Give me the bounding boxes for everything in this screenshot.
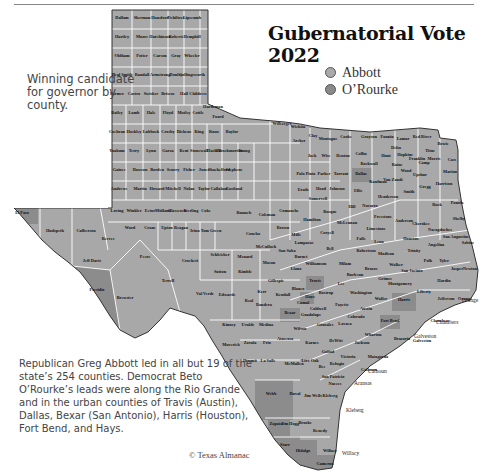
county-label: Austin xyxy=(360,306,373,311)
county-label: Sabine xyxy=(462,240,475,245)
county-label: Childress xyxy=(189,91,207,96)
county-label: Kinney xyxy=(222,322,236,327)
county-label: Baylor xyxy=(226,129,239,134)
county-label: Collingsworth xyxy=(179,72,206,77)
county-label: Motley xyxy=(178,110,192,115)
county-label: Dallas xyxy=(355,171,367,176)
county-label: Terry xyxy=(129,148,140,153)
county-label: Collin xyxy=(355,151,367,156)
county-label: Lamar xyxy=(397,136,410,141)
county-label: Bexar xyxy=(285,310,296,315)
county-label: Floyd xyxy=(163,110,174,115)
county-label: Irion xyxy=(190,228,200,233)
county-label: Comanche xyxy=(279,208,299,213)
county-label: Taylor xyxy=(198,186,210,191)
county-label: Hill xyxy=(349,204,357,209)
county-label: Burleson xyxy=(347,272,364,277)
county-label: Garza xyxy=(162,148,174,153)
county-label: Brown xyxy=(277,225,290,230)
county-label: Travis xyxy=(309,278,321,283)
county-label: Sutton xyxy=(214,269,227,274)
county-label: Jackson xyxy=(355,340,370,345)
county-label: Winkler xyxy=(126,208,141,213)
county-label: Polk xyxy=(424,258,433,263)
county-label: Walker xyxy=(389,262,403,267)
abbott-swatch-icon xyxy=(325,67,336,78)
map-subtitle: Winning candidate for governor by county… xyxy=(27,73,137,112)
county-label: Freestone xyxy=(374,214,392,219)
county-label: San Augustine xyxy=(443,234,469,239)
county-label: El Paso xyxy=(15,210,29,215)
county-label: McMullen xyxy=(284,361,304,366)
county-label: Henderson xyxy=(378,194,399,199)
map-note: Republican Greg Abbott led in all but 19… xyxy=(19,357,255,435)
county-label: Edwards xyxy=(219,292,236,297)
county-label: Wood xyxy=(401,168,412,173)
county-label: Randall xyxy=(135,72,150,77)
county-label: Gonzales xyxy=(317,322,334,327)
svg-text:Orange: Orange xyxy=(462,297,479,303)
county-label: Reagan xyxy=(174,225,188,230)
county-label: Upshur xyxy=(413,172,427,177)
county-label: Montague xyxy=(319,136,338,141)
svg-text:Kleberg: Kleberg xyxy=(346,407,364,413)
county-label: Cameron xyxy=(316,461,334,466)
county-label: Terrell xyxy=(162,278,175,283)
county-label: McCulloch xyxy=(256,244,277,249)
county-label: Marion xyxy=(443,169,457,174)
county-label: Gaines xyxy=(113,167,126,172)
county-label: Frio xyxy=(263,340,271,345)
county-label: Erath xyxy=(298,187,309,192)
county-label: Briscoe xyxy=(161,91,175,96)
county-label: Newton xyxy=(463,266,478,271)
county-label: Lavaca xyxy=(338,321,352,326)
county-label: Gray xyxy=(171,53,181,58)
legend-item-orourke: O’Rourke xyxy=(325,81,398,98)
county-label: Montgomery xyxy=(388,281,413,286)
county-label: Cottle xyxy=(192,110,203,115)
county-label: Comal xyxy=(297,300,310,305)
county-label: Brooks xyxy=(298,420,311,425)
svg-text:Calhoun: Calhoun xyxy=(368,368,387,374)
county-label: Young xyxy=(238,148,251,153)
county-label: Red River xyxy=(413,134,432,139)
county-label: Brazoria xyxy=(394,336,411,341)
county-label: Hopkins xyxy=(397,152,413,157)
county-label: Caldwell xyxy=(310,306,327,311)
county-label: San Saba xyxy=(278,248,296,253)
county-label: Hood xyxy=(316,186,327,191)
county-label: Concho xyxy=(246,231,260,236)
county-label: Denton xyxy=(336,153,350,158)
county-label: Real xyxy=(245,298,254,303)
county-label: Sherman xyxy=(134,15,151,20)
svg-text:Chambers: Chambers xyxy=(436,319,458,325)
county-label: Trinity xyxy=(408,248,422,253)
county-label: Hamilton xyxy=(303,217,321,222)
county-label: Swisher xyxy=(144,91,159,96)
county-label: Sterling xyxy=(184,208,199,213)
county-label: Wichita xyxy=(291,124,306,129)
county-label: Medina xyxy=(259,322,274,327)
county-label: Kendall xyxy=(276,292,291,297)
county-label: Jim Wells xyxy=(304,393,322,398)
county-label: Kenedy xyxy=(313,428,328,433)
county-label: Atascosa xyxy=(277,336,294,341)
county-label: Houston xyxy=(403,236,419,241)
county-label: Grimes xyxy=(378,276,392,281)
county-label: Clay xyxy=(309,133,318,138)
county-label: Harrison xyxy=(436,181,453,186)
county-label: Jasper xyxy=(451,266,463,271)
county-label: Coleman xyxy=(259,212,276,217)
county-label: Maverick xyxy=(222,342,240,347)
county-label: Reeves xyxy=(102,236,115,241)
county-label: Matagorda xyxy=(368,354,389,359)
county-label: Fisher xyxy=(183,167,195,172)
county-label: Harris xyxy=(398,297,410,302)
county-label: Hartley xyxy=(115,34,130,39)
county-label: Hidalgo xyxy=(296,448,311,453)
county-label: Llano xyxy=(291,266,302,271)
county-label: Mills xyxy=(291,232,301,237)
county-label: Armstrong xyxy=(150,72,171,77)
county-label: Mason xyxy=(263,260,276,265)
county-label: Williamson xyxy=(306,261,328,266)
